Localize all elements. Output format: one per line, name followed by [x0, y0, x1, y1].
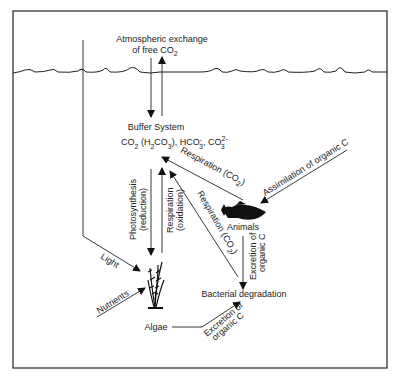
fish-icon: [221, 201, 266, 220]
atmosphere-label: Atmospheric exchange: [116, 34, 208, 44]
svg-text:(reduction): (reduction): [138, 188, 148, 231]
svg-text:Light: Light: [99, 251, 121, 270]
bacterial-degradation-label: Bacterial degradation: [201, 289, 286, 299]
svg-text:Assimilation of organic C: Assimilation of organic C: [261, 136, 351, 197]
svg-text:of free CO2: of free CO2: [132, 45, 178, 57]
algae-label: Algae: [144, 322, 167, 332]
svg-text:Photosynthesis: Photosynthesis: [128, 178, 138, 240]
svg-text:Respiration: Respiration: [165, 187, 175, 233]
svg-text:Respiration (CO2): Respiration (CO2): [178, 145, 247, 189]
assimilation-arrow: [261, 150, 347, 203]
animals-label: Animals: [227, 222, 260, 232]
buffer-system-formula: CO2 (H2CO3), HCO-3, CO2-3: [121, 135, 228, 150]
svg-text:(oxidation): (oxidation): [175, 189, 185, 231]
buffer-system-title: Buffer System: [128, 122, 184, 132]
svg-text:Nutrients: Nutrients: [95, 288, 131, 316]
carbon-cycle-diagram: Atmospheric exchange of free CO2 Buffer …: [0, 0, 397, 379]
diagram-frame: [13, 11, 387, 368]
algae-icon: [148, 262, 164, 308]
svg-text:organic C: organic C: [257, 233, 267, 272]
water-surface-line: [13, 68, 387, 74]
